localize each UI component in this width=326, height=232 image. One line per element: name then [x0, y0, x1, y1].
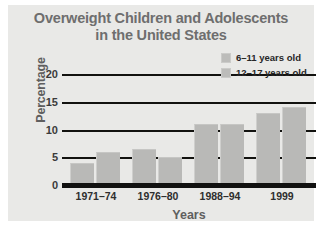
- legend-label-12-17: 12–17 years old: [236, 67, 307, 78]
- axis-baseline: [62, 183, 316, 188]
- chart-panel: Overweight Children and Adolescents in t…: [8, 5, 314, 221]
- chart-title-line-1: Overweight Children and Adolescents: [34, 10, 288, 26]
- y-tick-label-20: 20: [46, 68, 58, 80]
- y-tick-label-10: 10: [46, 124, 58, 136]
- bar-6-11-1999[interactable]: [256, 113, 280, 185]
- x-axis-label: Years: [62, 208, 316, 222]
- y-tick-label-0: 0: [52, 179, 58, 191]
- legend-item-6-11[interactable]: 6–11 years old: [221, 51, 321, 64]
- bar-12-17-1999[interactable]: [282, 107, 306, 185]
- bar-groups: [62, 74, 316, 185]
- chart-figure: Overweight Children and Adolescents in t…: [0, 0, 326, 232]
- y-tick-label-15: 15: [46, 96, 58, 108]
- bar-6-11-1976-80[interactable]: [132, 149, 156, 185]
- bar-12-17-1988-94[interactable]: [220, 124, 244, 185]
- chart-title-line-2: in the United States: [18, 27, 304, 44]
- x-tick-label-1976-80: 1976–80: [138, 190, 179, 202]
- legend-label-6-11: 6–11 years old: [236, 52, 301, 63]
- legend-swatch-icon-12-17: [221, 68, 231, 78]
- bar-12-17-1971-74[interactable]: [96, 152, 120, 185]
- bar-6-11-1988-94[interactable]: [194, 124, 218, 185]
- legend-swatch-icon-6-11: [221, 53, 231, 63]
- x-tick-label-1999: 1999: [270, 190, 293, 202]
- x-tick-label-1988-94: 1988–94: [200, 190, 241, 202]
- legend-item-12-17[interactable]: 12–17 years old: [221, 66, 321, 79]
- y-tick-label-5: 5: [52, 151, 58, 163]
- bar-12-17-1976-80[interactable]: [158, 157, 182, 185]
- chart-title: Overweight Children and Adolescents in t…: [18, 10, 304, 43]
- chart-legend: 6–11 years old 12–17 years old: [221, 51, 321, 81]
- x-tick-label-1971-74: 1971–74: [76, 190, 117, 202]
- bar-6-11-1971-74[interactable]: [70, 163, 94, 185]
